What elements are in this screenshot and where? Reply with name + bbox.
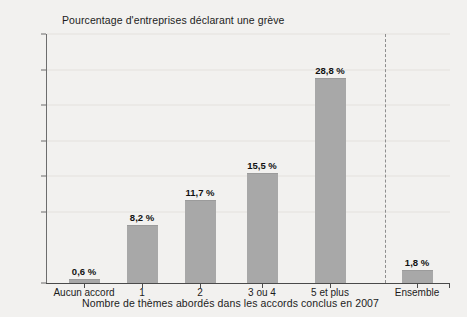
bar-value-label: 15,5 %	[247, 160, 277, 171]
x-axis-line	[46, 283, 450, 284]
x-tick-mark	[200, 283, 201, 288]
bar: 15,5 %	[247, 173, 278, 284]
y-axis-line	[46, 34, 47, 284]
bar-chart: Pourcentage d'entreprises déclarant une …	[0, 0, 467, 317]
bar-value-label: 11,7 %	[185, 187, 214, 198]
x-axis-title: Nombre de thèmes abordés dans les accord…	[0, 297, 461, 309]
y-tick-mark	[41, 176, 46, 177]
y-tick-mark	[41, 105, 46, 106]
bar-value-label: 1,8 %	[405, 257, 429, 268]
gridline	[47, 105, 450, 106]
x-tick-mark	[84, 283, 85, 288]
bar-value-label: 0,6 %	[72, 266, 96, 277]
y-tick-mark	[41, 140, 46, 141]
x-tick-mark	[262, 283, 263, 288]
bar: 1,8 %	[402, 270, 433, 284]
y-tick-mark	[41, 69, 46, 70]
gridline	[47, 34, 450, 35]
x-axis-end-tick	[449, 283, 450, 288]
x-tick-mark	[417, 283, 418, 288]
x-tick-mark	[142, 283, 143, 288]
bar: 11,7 %	[185, 200, 216, 284]
category-separator-line	[385, 34, 386, 283]
gridline	[47, 69, 450, 70]
bar: 8,2 %	[127, 225, 158, 284]
bar-value-label: 8,2 %	[130, 212, 154, 223]
gridline	[47, 140, 450, 141]
x-tick-mark	[330, 283, 331, 288]
y-tick-mark	[41, 211, 46, 212]
y-tick-mark	[41, 34, 46, 35]
y-axis-title: Pourcentage d'entreprises déclarant une …	[62, 14, 284, 26]
bar: 28,8 %	[315, 78, 346, 284]
bar-value-label: 28,8 %	[315, 65, 345, 76]
